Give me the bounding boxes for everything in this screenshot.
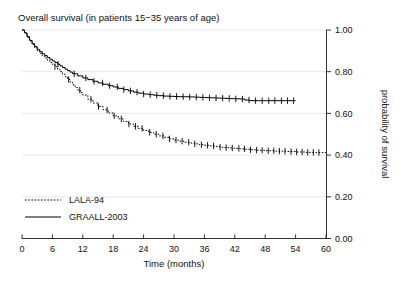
x-tick-label-42: 42 (230, 244, 240, 254)
x-tick-label-0: 0 (19, 244, 24, 254)
survival-chart-figure: Overall survival (in patients 15−35 year… (0, 0, 409, 287)
y-tick-label-1.00: 1.00 (335, 25, 353, 35)
survival-curve-line (22, 30, 296, 101)
y-tick-label-0.40: 0.40 (335, 150, 353, 160)
x-tick-label-18: 18 (108, 244, 118, 254)
y-tick-label-0.60: 0.60 (335, 109, 353, 119)
x-tick-label-6: 6 (50, 244, 55, 254)
x-axis-title: Time (months) (144, 258, 205, 269)
x-tick-label-54: 54 (291, 244, 301, 254)
series-graall-2003 (22, 30, 296, 104)
y-axis-title: probability of survival (380, 90, 391, 179)
x-tick-label-12: 12 (78, 244, 88, 254)
x-tick-label-30: 30 (169, 244, 179, 254)
chart-canvas: 06121824303642485460 0.000.200.400.600.8… (0, 0, 409, 287)
x-axis-ticks-group: 06121824303642485460 (19, 235, 331, 255)
series-lala-94 (22, 30, 326, 156)
chart-legend: LALA-94GRAALL-2003 (25, 195, 128, 222)
gridlines-group (22, 30, 326, 239)
x-tick-label-60: 60 (321, 244, 331, 254)
axis-spines-group (22, 30, 327, 239)
x-tick-label-48: 48 (260, 244, 270, 254)
y-axis-ticks-group: 0.000.200.400.600.801.00 (326, 25, 353, 244)
legend-label-graall-2003: GRAALL-2003 (69, 212, 128, 222)
x-tick-label-36: 36 (199, 244, 209, 254)
y-tick-label-0.00: 0.00 (335, 234, 353, 244)
x-tick-label-24: 24 (139, 244, 149, 254)
legend-label-lala-94: LALA-94 (69, 195, 104, 205)
data-series-group (22, 30, 326, 156)
y-tick-label-0.20: 0.20 (335, 192, 353, 202)
survival-curve-line (22, 30, 326, 153)
y-tick-label-0.80: 0.80 (335, 67, 353, 77)
